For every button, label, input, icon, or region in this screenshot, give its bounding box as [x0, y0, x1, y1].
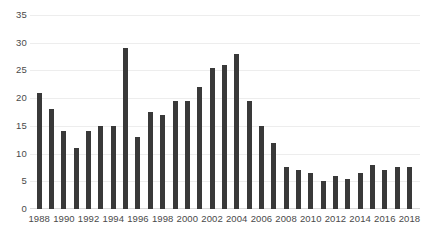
bar — [321, 181, 326, 209]
bar — [148, 112, 153, 209]
y-tick-label: 20 — [3, 93, 27, 103]
y-tick-label: 30 — [3, 38, 27, 48]
bar — [382, 170, 387, 209]
bar — [296, 170, 301, 209]
plot-area — [30, 15, 420, 209]
bar — [135, 137, 140, 209]
bar — [123, 48, 128, 209]
bar — [173, 101, 178, 209]
bar — [98, 126, 103, 209]
bar — [333, 176, 338, 209]
x-tick-label: 2018 — [395, 213, 425, 224]
bar — [358, 173, 363, 209]
bar — [222, 65, 227, 209]
y-tick-label: 10 — [3, 149, 27, 159]
y-tick-label: 5 — [3, 176, 27, 186]
bar-chart: 05101520253035 1988199019921994199619982… — [0, 0, 426, 242]
bar — [407, 167, 412, 209]
y-tick-label: 15 — [3, 121, 27, 131]
bar — [61, 131, 66, 209]
bar — [308, 173, 313, 209]
bar — [111, 126, 116, 209]
y-axis: 05101520253035 — [0, 0, 27, 242]
bar — [74, 148, 79, 209]
x-axis: 1988199019921994199619982000200220042006… — [30, 211, 420, 229]
y-tick-label: 35 — [3, 10, 27, 20]
bar — [86, 131, 91, 209]
bar — [271, 143, 276, 210]
bar — [185, 101, 190, 209]
bar — [210, 68, 215, 209]
y-tick-label: 25 — [3, 65, 27, 75]
bar — [197, 87, 202, 209]
bar — [247, 101, 252, 209]
bar — [284, 167, 289, 209]
bar — [49, 109, 54, 209]
bar — [37, 93, 42, 209]
bar — [160, 115, 165, 209]
bar — [370, 165, 375, 209]
bar — [395, 167, 400, 209]
bar — [234, 54, 239, 209]
bars-layer — [30, 15, 420, 209]
bar — [259, 126, 264, 209]
bar — [345, 179, 350, 209]
